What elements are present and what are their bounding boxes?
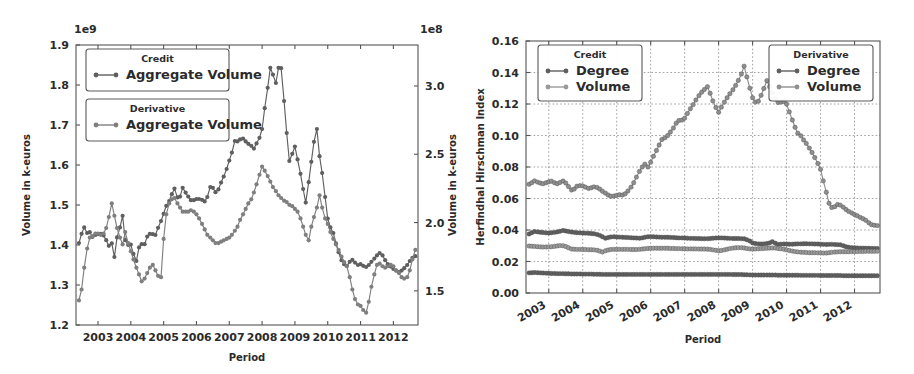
data-point bbox=[104, 226, 108, 230]
figure-root: 1.21.31.41.51.61.71.81.91.52.02.53.02003… bbox=[0, 0, 914, 374]
data-point bbox=[315, 205, 319, 209]
data-point bbox=[304, 233, 308, 237]
data-point bbox=[307, 180, 311, 184]
data-point bbox=[254, 141, 258, 145]
legend-marker bbox=[114, 73, 119, 78]
data-point bbox=[364, 311, 368, 315]
data-point bbox=[151, 263, 155, 267]
data-point bbox=[566, 184, 570, 188]
y-axis-title-right: Volume in k-euros bbox=[447, 134, 458, 236]
data-point bbox=[156, 226, 160, 230]
data-point bbox=[342, 260, 346, 264]
data-point bbox=[153, 233, 157, 237]
x-axis-title: Period bbox=[229, 352, 266, 363]
y-tick-label-right: 1.5 bbox=[425, 285, 445, 298]
data-point bbox=[748, 86, 752, 90]
legend-marker bbox=[94, 73, 99, 78]
data-point bbox=[793, 125, 797, 129]
data-point bbox=[85, 246, 89, 250]
legend-1[interactable]: DerivativeDegreeVolume bbox=[769, 45, 873, 101]
legend-title: Derivative bbox=[130, 103, 185, 114]
legend-entry-label: Degree bbox=[576, 63, 629, 78]
legend-0[interactable]: CreditDegreeVolume bbox=[538, 45, 642, 101]
legend-title: Credit bbox=[574, 49, 607, 60]
data-point bbox=[197, 216, 201, 220]
data-point bbox=[79, 287, 83, 291]
x-tick-label: 2006 bbox=[617, 298, 650, 325]
data-point bbox=[153, 268, 157, 272]
data-point bbox=[181, 186, 185, 190]
x-tick-label: 2010 bbox=[312, 331, 343, 344]
data-point bbox=[266, 174, 270, 178]
data-point bbox=[750, 96, 754, 100]
x-tick-label: 2005 bbox=[583, 298, 616, 325]
y-axis-title-left: Volume in k-euros bbox=[21, 134, 32, 236]
data-point bbox=[369, 260, 373, 264]
data-point bbox=[225, 167, 229, 171]
data-point bbox=[315, 127, 319, 131]
data-point bbox=[295, 210, 299, 214]
data-point bbox=[178, 205, 182, 209]
data-point bbox=[875, 249, 879, 253]
data-point bbox=[762, 86, 766, 90]
data-point bbox=[671, 126, 675, 130]
data-point bbox=[77, 241, 81, 245]
data-point bbox=[131, 257, 135, 261]
series-3 bbox=[527, 270, 880, 278]
data-point bbox=[249, 197, 253, 201]
data-point bbox=[88, 230, 92, 234]
data-point bbox=[813, 155, 817, 159]
data-point bbox=[405, 263, 409, 267]
y-tick-label: 0.02 bbox=[492, 256, 519, 269]
data-point bbox=[295, 157, 299, 161]
data-point bbox=[317, 154, 321, 158]
data-point bbox=[328, 230, 332, 234]
data-point bbox=[285, 131, 289, 135]
legend-1[interactable]: DerivativeAggregate Volume bbox=[86, 99, 262, 141]
left-chart-panel: 1.21.31.41.51.61.71.81.91.52.02.53.02003… bbox=[0, 0, 464, 374]
data-point bbox=[252, 147, 256, 151]
data-point bbox=[408, 268, 412, 272]
data-point bbox=[312, 140, 316, 144]
data-point bbox=[203, 199, 207, 203]
data-point bbox=[369, 285, 373, 289]
data-point bbox=[739, 72, 743, 76]
data-point bbox=[159, 275, 163, 279]
data-point bbox=[112, 214, 116, 218]
data-point bbox=[626, 189, 630, 193]
right-chart-panel: 0.000.020.040.060.080.100.120.140.162003… bbox=[464, 0, 914, 374]
data-point bbox=[282, 99, 286, 103]
data-point bbox=[629, 185, 633, 189]
data-point bbox=[304, 201, 308, 205]
data-point bbox=[307, 238, 311, 242]
data-point bbox=[274, 81, 278, 85]
data-point bbox=[107, 215, 111, 219]
data-point bbox=[334, 242, 338, 246]
legend-entry-label: Aggregate Volume bbox=[126, 117, 262, 132]
legend-marker bbox=[777, 69, 782, 74]
legend-marker bbox=[777, 85, 782, 90]
data-point bbox=[716, 110, 720, 114]
data-point bbox=[637, 169, 641, 173]
y-offset-left: 1e9 bbox=[74, 23, 97, 36]
data-point bbox=[112, 255, 116, 259]
data-point bbox=[326, 222, 330, 226]
data-point bbox=[824, 190, 828, 194]
data-point bbox=[293, 145, 297, 149]
data-point bbox=[82, 266, 86, 270]
data-point bbox=[186, 195, 190, 199]
data-point bbox=[233, 229, 237, 233]
legend-marker bbox=[795, 85, 800, 90]
data-point bbox=[634, 175, 638, 179]
data-point bbox=[164, 212, 168, 216]
y-tick-label-right: 3.0 bbox=[425, 80, 445, 93]
data-point bbox=[287, 159, 291, 163]
legend-0[interactable]: CreditAggregate Volume bbox=[86, 49, 262, 91]
x-tick-label: 2010 bbox=[753, 298, 786, 325]
data-point bbox=[646, 165, 650, 169]
data-point bbox=[323, 195, 327, 199]
y-tick-label: 0.08 bbox=[492, 161, 519, 174]
data-point bbox=[257, 173, 261, 177]
data-point bbox=[238, 218, 242, 222]
data-point bbox=[230, 233, 234, 237]
